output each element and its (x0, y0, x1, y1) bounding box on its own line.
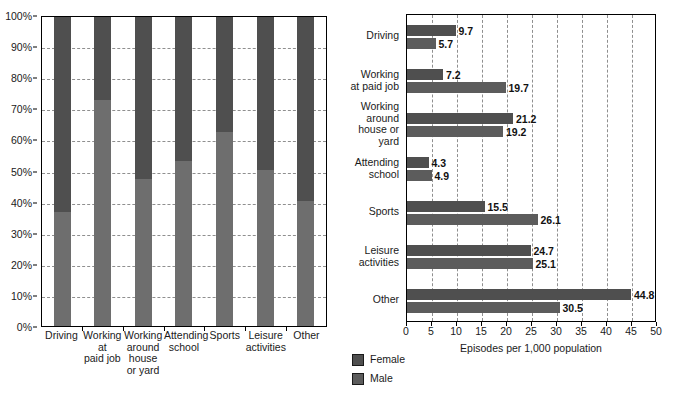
right-chart-x-tick-label: 45 (625, 325, 637, 337)
right-chart-x-axis-labels: 05101520253035404550 (406, 325, 656, 341)
left-chart-y-tick (33, 202, 37, 203)
left-chart-y-tick-label: 100% (5, 10, 32, 22)
left-chart-x-label: Leisure activities (246, 330, 286, 353)
right-chart-value-label: 26.1 (541, 215, 561, 226)
left-chart-x-label: Attending school (164, 330, 204, 353)
right-chart-value-label: 19.7 (509, 83, 529, 94)
left-chart-y-tick-label: 20% (11, 259, 32, 271)
right-chart-category-label: Leisure activities (359, 245, 399, 268)
right-chart-x-tick-label: 0 (403, 325, 409, 337)
left-chart-y-tick-label: 40% (11, 197, 32, 209)
left-chart-bar-segment-female (94, 17, 111, 100)
left-chart-y-tick (33, 16, 37, 17)
right-chart-x-tick-label: 20 (500, 325, 512, 337)
left-chart-y-tick-label: 0% (17, 321, 32, 333)
left-chart-y-tick (33, 295, 37, 296)
right-chart-value-label: 15.5 (488, 202, 508, 213)
right-chart-bars: 9.75.77.219.721.219.24.34.915.526.124.72… (407, 15, 655, 321)
left-chart-bar (297, 17, 314, 326)
right-chart-category-label: Driving (366, 30, 399, 42)
left-chart-bars (42, 17, 326, 326)
right-chart-value-label: 30.5 (563, 303, 583, 314)
right-chart-bar-male (407, 214, 538, 225)
right-chart-value-label: 4.9 (435, 171, 450, 182)
left-chart-bar-segment-female (297, 17, 314, 201)
left-chart-y-tick (33, 78, 37, 79)
left-chart-bar (54, 17, 71, 326)
legend-swatch-icon (352, 373, 364, 385)
right-chart-category-label: Working around house or yard (358, 101, 399, 147)
left-chart-y-tick-label: 70% (11, 103, 32, 115)
right-chart-bar-male (407, 258, 533, 269)
left-chart-x-axis-labels: DrivingWorking at paid jobWorking around… (41, 330, 327, 376)
left-chart-y-tick (33, 140, 37, 141)
left-chart-bar (94, 17, 111, 326)
left-chart-y-tick-label: 10% (11, 290, 32, 302)
legend-item: Female (352, 350, 472, 369)
right-chart-bar-female (407, 245, 531, 256)
left-chart-y-tick (33, 264, 37, 265)
left-chart-y-axis: 0%10%20%30%40%50%60%70%80%90%100% (0, 16, 37, 327)
right-chart-bar-female (407, 25, 456, 36)
right-chart-value-label: 19.2 (506, 127, 526, 138)
left-chart-bar-segment-male (54, 212, 71, 326)
right-chart-value-label: 21.2 (516, 114, 536, 125)
legend-label: Female (370, 354, 405, 365)
right-chart-bar-male (407, 302, 560, 313)
right-chart-value-label: 9.7 (459, 26, 474, 37)
left-chart-bar-segment-male (216, 132, 233, 326)
figure-container: 0%10%20%30%40%50%60%70%80%90%100% Drivin… (0, 0, 685, 395)
right-chart-category-label: Attending school (355, 157, 399, 180)
right-chart-category-label: Other (373, 294, 399, 306)
left-chart-bar-segment-female (54, 17, 71, 212)
left-chart-bar-segment-female (135, 17, 152, 179)
right-chart-bar-female (407, 201, 485, 212)
right-chart-x-tick-label: 40 (600, 325, 612, 337)
right-chart-bar-female (407, 69, 443, 80)
right-chart-category-label: Sports (369, 206, 399, 218)
left-chart-y-tick (33, 327, 37, 328)
legend-swatch-icon (352, 354, 364, 366)
left-chart-bar-segment-male (257, 170, 274, 326)
left-stacked-bar-chart: 0%10%20%30%40%50%60%70%80%90%100% Drivin… (0, 0, 345, 395)
right-chart-bar-male (407, 170, 432, 181)
left-chart-bar-segment-male (135, 179, 152, 326)
left-chart-bar-segment-female (216, 17, 233, 132)
left-chart-y-tick-label: 30% (11, 228, 32, 240)
left-chart-x-label: Working around house or yard (123, 330, 163, 376)
left-chart-x-label: Other (286, 330, 326, 342)
right-chart-x-tick-label: 10 (450, 325, 462, 337)
left-chart-y-tick (33, 233, 37, 234)
right-chart-x-tick-label: 5 (428, 325, 434, 337)
legend-label: Male (370, 373, 393, 384)
right-chart-plot-area: 9.75.77.219.721.219.24.34.915.526.124.72… (406, 14, 656, 322)
left-chart-x-label: Sports (205, 330, 245, 342)
right-chart-x-tick-label: 35 (575, 325, 587, 337)
right-chart-value-label: 4.3 (432, 158, 447, 169)
right-chart-x-tick-label: 50 (650, 325, 662, 337)
right-chart-bar-male (407, 126, 503, 137)
right-chart-bar-male (407, 82, 506, 93)
right-chart-bar-female (407, 157, 429, 168)
legend-item: Male (352, 369, 472, 388)
left-chart-plot-area (41, 16, 327, 327)
left-chart-bar (135, 17, 152, 326)
right-chart-value-label: 25.1 (536, 259, 556, 270)
right-chart-category-label: Working at paid job (351, 69, 399, 92)
right-chart-value-label: 24.7 (534, 246, 554, 257)
right-chart-bar-female (407, 289, 631, 300)
left-chart-x-label: Working at paid job (82, 330, 122, 365)
right-chart-x-tick-label: 30 (550, 325, 562, 337)
right-chart-value-label: 5.7 (439, 39, 454, 50)
right-chart-y-axis-labels: DrivingWorking at paid jobWorking around… (345, 14, 403, 322)
left-chart-y-tick-label: 60% (11, 134, 32, 146)
left-chart-bar-segment-female (257, 17, 274, 170)
left-chart-bar (257, 17, 274, 326)
right-chart-x-tick-label: 15 (475, 325, 487, 337)
left-chart-x-label: Driving (41, 330, 81, 342)
left-chart-y-tick-label: 90% (11, 41, 32, 53)
left-chart-y-tick (33, 171, 37, 172)
right-chart-x-tick-label: 25 (525, 325, 537, 337)
right-chart-value-label: 44.8 (634, 290, 654, 301)
right-chart-bar-female (407, 113, 513, 124)
